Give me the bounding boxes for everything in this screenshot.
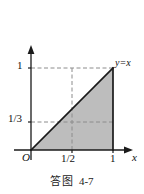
x-axis-tick-label-one-half: 1/2 xyxy=(61,153,75,164)
y-axis-tick-label-1: 1 xyxy=(17,60,23,71)
figure-caption-number: 4-7 xyxy=(79,175,94,187)
figure-caption-text: 答图 xyxy=(50,175,74,188)
x-axis-label: x xyxy=(132,152,137,163)
x-axis-tick-label-1: 1 xyxy=(110,153,116,164)
y-axis-tick-label-one-third: 1/3 xyxy=(8,113,22,124)
origin-label: O xyxy=(22,152,30,163)
figure-caption: 答图 4-7 xyxy=(0,172,144,188)
line-equation-label: y=x xyxy=(115,58,131,68)
plot-area xyxy=(0,0,144,194)
figure-container: 1 1/3 1/2 1 O x y=x 答图 4-7 xyxy=(0,0,144,194)
y-axis-arrowhead xyxy=(28,45,35,54)
